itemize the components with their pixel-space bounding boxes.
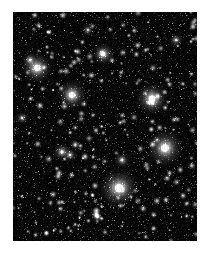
astronomical-photograph [13,12,197,241]
star-field-canvas [13,12,197,241]
image-viewer: Grayscale astronomical photograph: dense… [0,0,210,254]
